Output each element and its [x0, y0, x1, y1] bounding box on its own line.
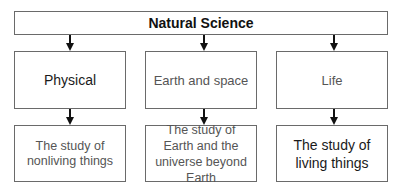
category-label: Life — [322, 73, 343, 88]
category-node-life: Life — [276, 51, 388, 109]
description-node-earth-and-space: The study of Earth and the universe beyo… — [145, 125, 257, 182]
root-label: Natural Science — [148, 15, 253, 31]
category-node-earth-and-space: Earth and space — [145, 51, 257, 109]
category-label: Physical — [44, 72, 96, 88]
description-node-life: The study of living things — [276, 125, 388, 182]
category-label: Earth and space — [154, 73, 249, 88]
description-text: The study of Earth and the universe beyo… — [151, 122, 251, 186]
description-text: The study of living things — [287, 136, 377, 172]
category-node-physical: Physical — [14, 51, 126, 109]
description-node-physical: The study of nonliving things — [14, 125, 126, 182]
root-node-natural-science: Natural Science — [14, 11, 388, 35]
description-text: The study of nonliving things — [25, 139, 115, 169]
